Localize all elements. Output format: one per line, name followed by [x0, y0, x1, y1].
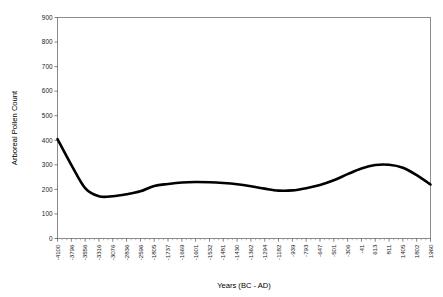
y-tick-label: 400: [42, 137, 53, 144]
x-tick-label: -647: [316, 244, 323, 257]
x-tick-label: -3556: [81, 244, 88, 260]
y-tick-label: 200: [42, 186, 53, 193]
y-axis-title: Arboreal Pollen Count: [10, 90, 19, 165]
x-axis-title: Years (BC - AD): [217, 281, 271, 290]
x-tick-label: 811: [385, 244, 392, 254]
x-tick-label: -501: [330, 244, 337, 257]
x-tick-label: -1362: [247, 244, 254, 260]
x-tick-label: -41: [358, 244, 365, 254]
y-tick-label: 700: [42, 63, 53, 70]
y-tick-label: 100: [42, 210, 53, 217]
plot-area-frame: [58, 18, 431, 239]
x-tick-label: -3076: [109, 244, 116, 260]
x-tick-label: -939: [289, 244, 296, 257]
y-tick-label: 300: [42, 161, 53, 168]
x-tick-label: -793: [302, 244, 309, 257]
x-tick-label: -1669: [178, 244, 185, 260]
x-tick-label: 1960: [427, 244, 434, 258]
y-tick-label: 600: [42, 87, 53, 94]
y-tick-label: 900: [42, 14, 53, 21]
chart-canvas: 0100200300400500600700800900 -4100-3796-…: [0, 0, 443, 297]
x-tick-label: -4100: [54, 244, 61, 260]
y-tick-label: 0: [49, 235, 53, 242]
x-tick-label: 1802: [413, 244, 420, 258]
pollen-count-chart: 0100200300400500600700800900 -4100-3796-…: [0, 0, 443, 297]
x-tick-label: -1430: [233, 244, 240, 260]
x-tick-label: -1182: [275, 244, 282, 260]
x-tick-label: -1601: [192, 244, 199, 260]
y-tick-label: 800: [42, 38, 53, 45]
x-tick-label: -1737: [164, 244, 171, 260]
x-tick-label: -1532: [206, 244, 213, 260]
x-tick-label: 613: [371, 244, 378, 255]
x-tick-label: -306: [344, 244, 351, 257]
x-tick-label: -2836: [123, 244, 130, 260]
x-tick-label: -3316: [95, 244, 102, 260]
x-tick-label: -1481: [219, 244, 226, 260]
x-tick-label: -1294: [261, 244, 268, 260]
x-tick-label: -3796: [68, 244, 75, 260]
y-tick-label: 500: [42, 112, 53, 119]
x-tick-label: -1805: [150, 244, 157, 260]
x-tick-label: 1405: [399, 244, 406, 258]
x-tick-label: -2596: [137, 244, 144, 260]
